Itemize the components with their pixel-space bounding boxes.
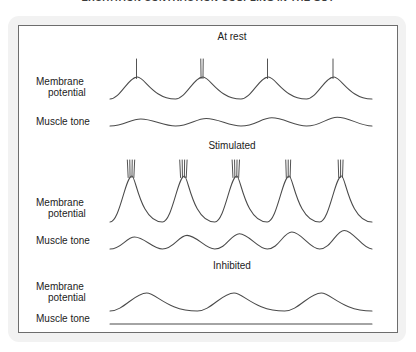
trace-label-muscle-tone-stimulated: Muscle tone: [36, 235, 90, 247]
section-heading-inhibited: Inhibited: [172, 260, 292, 272]
trace-label-membrane-potential-inhibited-line1: Membrane: [36, 281, 84, 293]
section-heading-at-rest: At rest: [172, 31, 292, 43]
figure-title: EXCITATION CONTRACTION COUPLING IN THE G…: [0, 0, 416, 2]
trace-label-muscle-tone-at-rest: Muscle tone: [36, 116, 90, 128]
section-heading-stimulated: Stimulated: [172, 140, 292, 152]
trace-label-membrane-potential-inhibited-line2: potential: [48, 292, 86, 304]
trace-label-muscle-tone-inhibited: Muscle tone: [36, 313, 90, 325]
trace-label-membrane-potential-stimulated-line2: potential: [48, 208, 86, 220]
trace-label-membrane-potential-at-rest-line1: Membrane: [36, 76, 84, 88]
trace-label-membrane-potential-stimulated-line1: Membrane: [36, 197, 84, 209]
trace-label-membrane-potential-at-rest-line2: potential: [48, 87, 86, 99]
